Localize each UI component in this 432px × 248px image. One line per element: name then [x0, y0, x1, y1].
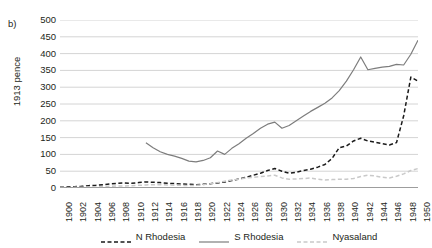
y-tick-label: 150 — [30, 133, 56, 143]
line-chart-svg — [60, 20, 418, 188]
legend-swatch-icon — [297, 232, 327, 240]
x-tick-label: 1900 — [64, 202, 74, 222]
x-tick-label: 1906 — [107, 202, 117, 222]
x-tick-label: 1940 — [350, 202, 360, 222]
x-tick-label: 1934 — [307, 202, 317, 222]
y-tick-label: 400 — [30, 49, 56, 59]
x-tick-label: 1930 — [279, 202, 289, 222]
legend-label: N Rhodesia — [136, 231, 186, 242]
y-axis-title: 1913 pence — [11, 42, 22, 122]
x-tick-label: 1904 — [93, 202, 103, 222]
x-tick-label: 1950 — [422, 202, 432, 222]
y-tick-label: 200 — [30, 116, 56, 126]
x-tick-label: 1932 — [293, 202, 303, 222]
y-tick-label: 350 — [30, 65, 56, 75]
x-tick-label: 1948 — [408, 202, 418, 222]
plot-area — [60, 20, 418, 188]
x-tick-label: 1938 — [336, 202, 346, 222]
x-tick-label: 1902 — [78, 202, 88, 222]
y-tick-label: 50 — [30, 166, 56, 176]
x-tick-label: 1912 — [150, 202, 160, 222]
series-lines — [60, 40, 418, 188]
x-tick-label: 1920 — [207, 202, 217, 222]
x-tick-label: 1910 — [136, 202, 146, 222]
y-tick-label: 300 — [30, 82, 56, 92]
legend-swatch-icon — [101, 232, 131, 240]
legend-swatch-icon — [199, 232, 229, 240]
x-axis-tick-labels: 1900190219041906190819101912191419161918… — [60, 190, 418, 224]
y-tick-label: 500 — [30, 15, 56, 25]
x-tick-label: 1908 — [121, 202, 131, 222]
y-tick-label: 100 — [30, 149, 56, 159]
y-tick-label: 0 — [30, 183, 56, 193]
x-tick-label: 1946 — [393, 202, 403, 222]
chart-legend: N RhodesiaS RhodesiaNyasaland — [60, 228, 418, 244]
x-tick-label: 1942 — [365, 202, 375, 222]
legend-item[interactable]: Nyasaland — [297, 231, 377, 242]
x-tick-label: 1916 — [179, 202, 189, 222]
panel-letter: b) — [8, 18, 16, 29]
x-tick-label: 1918 — [193, 202, 203, 222]
x-tick-label: 1914 — [164, 202, 174, 222]
gridlines — [60, 20, 418, 188]
x-tick-label: 1936 — [322, 202, 332, 222]
legend-label: Nyasaland — [332, 231, 377, 242]
y-tick-label: 250 — [30, 99, 56, 109]
legend-item[interactable]: N Rhodesia — [101, 231, 186, 242]
x-tick-label: 1924 — [236, 202, 246, 222]
y-axis-tick-labels: 050100150200250300350400450500 — [28, 20, 56, 188]
legend-item[interactable]: S Rhodesia — [199, 231, 283, 242]
legend-label: S Rhodesia — [234, 231, 283, 242]
x-tick-label: 1944 — [379, 202, 389, 222]
y-tick-label: 450 — [30, 32, 56, 42]
x-tick-label: 1926 — [250, 202, 260, 222]
x-tick-label: 1922 — [222, 202, 232, 222]
x-tick-label: 1928 — [264, 202, 274, 222]
series-line — [146, 40, 418, 162]
